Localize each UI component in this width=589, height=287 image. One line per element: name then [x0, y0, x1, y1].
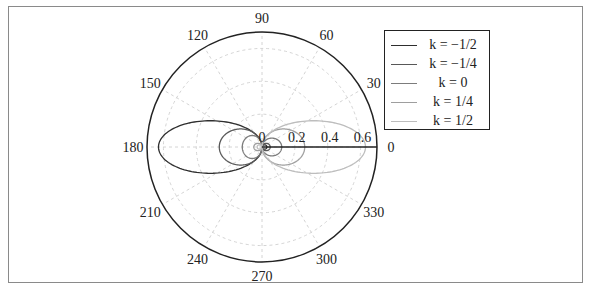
angle-tick-label: 270 [252, 269, 273, 284]
legend-label: k = −1/2 [419, 37, 487, 53]
legend-entry-k-half: k = 1/2 [385, 111, 489, 131]
radial-tick-label: 0 [259, 130, 266, 145]
angle-tick-label: 60 [320, 28, 334, 43]
legend-label: k = −1/4 [419, 56, 487, 72]
angle-tick-label: 210 [140, 205, 161, 220]
radial-tick-label: 0.6 [354, 130, 372, 145]
angle-tick-label: 240 [187, 252, 208, 267]
legend-label: k = 1/2 [419, 113, 487, 129]
legend-label: k = 0 [419, 75, 487, 91]
angle-tick-label: 30 [367, 76, 381, 91]
angle-tick-label: 120 [187, 28, 208, 43]
angle-tick-label: 330 [363, 205, 384, 220]
radial-tick-label: 0.2 [288, 130, 306, 145]
angle-tick-label: 0 [388, 140, 395, 155]
legend-label: k = 1/4 [419, 94, 487, 110]
legend-entry-k-neg-half: k = −1/2 [385, 35, 489, 55]
grid-spoke [262, 90, 362, 148]
grid-spoke [162, 90, 262, 148]
legend-entry-k-quarter: k = 1/4 [385, 92, 489, 112]
grid-spoke [162, 147, 262, 205]
legend-swatch [391, 45, 417, 46]
angle-tick-label: 150 [140, 76, 161, 91]
legend-swatch [391, 121, 417, 122]
angle-tick-label: 180 [123, 140, 144, 155]
angle-tick-label: 300 [316, 252, 337, 267]
legend: k = −1/2 k = −1/4 k = 0 k = 1/4 k = 1/2 [384, 30, 490, 130]
legend-swatch [391, 83, 417, 84]
legend-swatch [391, 102, 417, 103]
legend-entry-k-neg-quarter: k = −1/4 [385, 54, 489, 74]
polar-chart: 030609012015018021024027030033000.20.40.… [0, 0, 589, 287]
legend-entry-k-zero: k = 0 [385, 73, 489, 93]
angle-tick-label: 90 [255, 11, 269, 26]
radial-tick-label: 0.4 [321, 130, 339, 145]
grid-spoke [262, 147, 362, 205]
legend-swatch [391, 64, 417, 65]
